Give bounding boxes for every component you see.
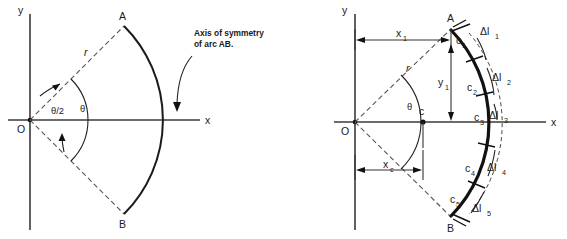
radius-line-to-b (30, 120, 124, 214)
y1-arrowhead-bottom (448, 112, 454, 121)
symmetry-annotation-line1: Axis of symmetry (194, 28, 264, 38)
figure-root: y x O A B r θ/2 θ Axis of symmetry of ar… (0, 0, 567, 239)
xc-arrowhead-right (413, 167, 422, 173)
radius-label-right: r (406, 62, 410, 74)
segment-centroid-5: c (450, 193, 455, 205)
radius-label-left: r (84, 46, 88, 58)
segment-tick-5 (452, 214, 470, 222)
angle-theta-label-right: θ (407, 102, 412, 112)
angle-theta-lower-arc (71, 120, 88, 161)
x1-arrowhead-right (441, 37, 450, 43)
arc-discretization-panel: y x O A B r θ c x 1 x c y 1 c 1 c 2 c 3 … (284, 0, 567, 239)
radius-line-to-b-right (355, 122, 450, 216)
segment-length-5-sub: 5 (487, 209, 491, 218)
centroid-label: c (419, 105, 424, 117)
radius-line-to-a (30, 26, 124, 120)
segment-centroid-5-sub: 5 (456, 200, 460, 209)
segment-length-4-sub: 4 (502, 168, 506, 177)
segment-centroid-2: c (467, 81, 472, 93)
point-b-label-left: B (119, 218, 126, 230)
segment-centroid-1-sub: 1 (462, 41, 466, 50)
segment-length-1-sub: 1 (495, 32, 499, 41)
segment-length-3-sub: 3 (504, 116, 508, 125)
segment-tick-0 (452, 24, 470, 31)
point-b-label-right: B (447, 222, 454, 234)
segment-length-2-sub: 2 (507, 78, 511, 87)
x1-label: x (396, 27, 402, 39)
x1-arrowhead-left (356, 37, 365, 43)
symmetry-annotation-line2: of arc AB. (194, 39, 233, 49)
symmetry-annotation-arrowhead (173, 102, 181, 112)
xc-label: x (383, 158, 389, 170)
x-axis-label-right: x (551, 116, 557, 128)
angle-theta-arc-lower-right (401, 122, 421, 169)
y1-label-sub: 1 (445, 83, 449, 92)
segment-length-3: Δl (489, 109, 498, 121)
angle-theta-half-label: θ/2 (51, 106, 64, 116)
y1-label: y (438, 76, 444, 88)
segment-centroid-1: c (456, 34, 461, 46)
segment-length-5: Δl (472, 202, 481, 214)
segment-length-4: Δl (487, 161, 496, 173)
segment-centroid-4-sub: 4 (471, 169, 475, 178)
angle-theta-arc-upper-right (401, 75, 421, 122)
segment-length-1: Δl (480, 25, 489, 37)
y-axis-label-right: y (342, 4, 348, 16)
y1-arrowhead-top (448, 44, 454, 53)
theta-lower-arrowhead (59, 133, 66, 141)
origin-label-right: O (341, 125, 349, 137)
segment-centroid-3-sub: 3 (480, 118, 484, 127)
segment-centroid-2-sub: 2 (473, 88, 477, 97)
y-axis-label-left: y (18, 4, 24, 16)
segment-centroid-4: c (465, 162, 470, 174)
segment-length-2: Δl (492, 71, 501, 83)
origin-label-left: O (17, 123, 25, 135)
x-axis-label-left: x (205, 114, 211, 126)
angle-theta-label-left: θ (80, 104, 85, 114)
xc-label-sub: c (390, 165, 394, 174)
point-a-label-right: A (447, 12, 454, 24)
arc-definition-panel: y x O A B r θ/2 θ Axis of symmetry of ar… (0, 0, 284, 239)
x1-label-sub: 1 (403, 34, 407, 43)
point-a-label-left: A (119, 10, 126, 22)
symmetry-annotation-leader (177, 56, 192, 104)
xc-arrowhead-left (356, 167, 365, 173)
segment-centroid-3: c (474, 111, 479, 123)
